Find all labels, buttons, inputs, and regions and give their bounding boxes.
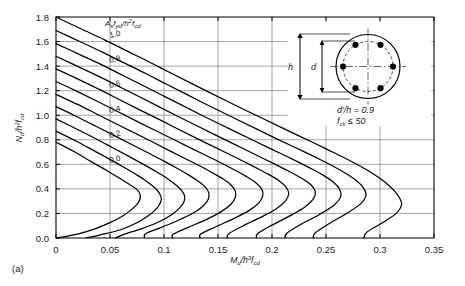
y-tick-label: 0.2 xyxy=(36,208,49,219)
y-tick-label: 1.0 xyxy=(36,110,49,121)
x-title-slash: /h xyxy=(240,255,248,265)
rebar-dot xyxy=(352,85,358,91)
y-tick-label: 0.8 xyxy=(36,134,49,145)
x-tick-label: 0.05 xyxy=(101,244,120,255)
x-axis-tick-labels: 00.050.10.150.20.250.30.35 xyxy=(53,244,443,255)
svg-text:Nd/h2fcd: Nd/h2fcd xyxy=(14,113,25,142)
x-tick-label: 0.15 xyxy=(209,244,228,255)
rebar-dot xyxy=(377,42,383,48)
inset-cross-section: h d d'/h = 0.9 fck ≤ 50 xyxy=(288,22,431,127)
figure-container: 00.050.10.150.20.250.30.35 0.00.20.40.60… xyxy=(0,0,465,286)
y-tick-label: 0.4 xyxy=(36,183,49,194)
y-axis-tick-labels: 0.00.20.40.60.81.01.21.41.61.8 xyxy=(36,12,49,244)
y-tick-label: 1.4 xyxy=(36,61,49,72)
x-tick-label: 0.2 xyxy=(265,244,278,255)
y-tick-label: 1.2 xyxy=(36,85,49,96)
x-title-sub-cd: cd xyxy=(253,260,260,266)
y-tick-label: 0.0 xyxy=(36,233,49,244)
y-title-sub-cd: cd xyxy=(19,113,25,120)
rebar-dot xyxy=(377,85,383,91)
y-axis-title: Nd/h2fcd xyxy=(14,113,25,142)
capacity-interaction-chart: 00.050.10.150.20.250.30.35 0.00.20.40.60… xyxy=(0,0,465,286)
x-tick-label: 0.25 xyxy=(317,244,336,255)
x-axis-title: Md/h3fcd xyxy=(230,255,260,266)
inset-label-h: h xyxy=(288,62,293,72)
rebar-dot xyxy=(390,63,396,69)
inset-note-dh: d'/h = 0.9 xyxy=(337,105,374,115)
y-tick-label: 1.6 xyxy=(36,36,49,47)
param-sub-cd: cd xyxy=(134,23,141,29)
note-rest: ≤ 50 xyxy=(346,116,366,126)
x-tick-label: 0.3 xyxy=(373,244,386,255)
rebar-dot xyxy=(340,63,346,69)
svg-text:Md/h3fcd: Md/h3fcd xyxy=(230,255,260,266)
y-tick-label: 1.8 xyxy=(36,12,49,23)
x-tick-label: 0.1 xyxy=(157,244,170,255)
panel-label: (a) xyxy=(12,263,24,274)
rebar-dot xyxy=(352,42,358,48)
x-tick-label: 0 xyxy=(53,244,58,255)
y-tick-label: 0.6 xyxy=(36,159,49,170)
x-tick-label: 0.35 xyxy=(425,244,444,255)
